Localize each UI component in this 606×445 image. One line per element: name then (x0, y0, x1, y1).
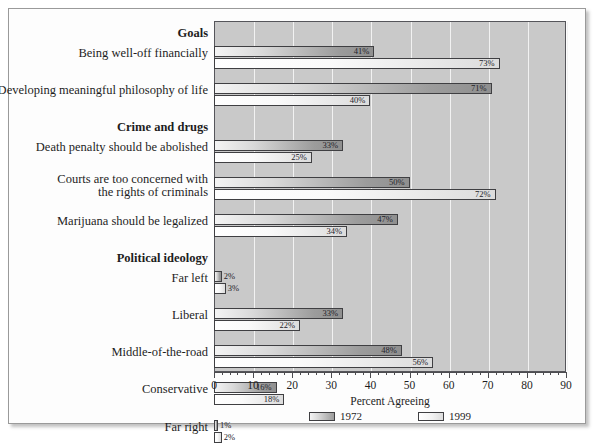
tick-label-0: 0 (211, 379, 217, 391)
category-label: Being well-off financially (78, 47, 208, 61)
bar-1972-far-left: 2% (214, 271, 222, 282)
legend-swatch-icon (418, 412, 444, 421)
tick-46 (394, 372, 395, 375)
tick-42 (378, 372, 379, 375)
legend-swatch-icon (309, 412, 335, 421)
tick-84 (543, 372, 544, 375)
bar-1972-marijuana-should-be-legalized: 47% (214, 214, 398, 225)
tick-74 (503, 372, 504, 375)
tick-52 (417, 372, 418, 375)
bar-value-label: 40% (350, 95, 366, 106)
bar-value-label: 73% (479, 58, 495, 69)
legend-label: 1999 (449, 410, 471, 422)
tick-22 (300, 372, 301, 375)
tick-76 (511, 372, 512, 375)
tick-label-30: 30 (326, 379, 338, 391)
legend-label: 1972 (340, 410, 362, 422)
bar-value-label: 33% (322, 140, 338, 151)
tick-36 (355, 372, 356, 375)
category-label: Courts are too concerned withthe rights … (0, 173, 208, 200)
tick-78 (519, 372, 520, 375)
tick-44 (386, 372, 387, 375)
tick-0 (214, 372, 215, 378)
tick-54 (425, 372, 426, 375)
bar-1972-middle-of-the-road: 48% (214, 345, 402, 356)
tick-86 (550, 372, 551, 375)
tick-40 (370, 372, 371, 378)
group-label: Crime and drugs (117, 121, 208, 135)
tick-14 (269, 372, 270, 375)
legend-item-1999[interactable]: 1999 (418, 410, 471, 422)
bar-value-label: 33% (322, 308, 338, 319)
tick-24 (308, 372, 309, 375)
tick-70 (488, 372, 489, 378)
tick-18 (284, 372, 285, 375)
tick-28 (324, 372, 325, 375)
chart-rows: GoalsBeing well-off financially41%73%Dev… (9, 21, 566, 372)
tick-10 (253, 372, 254, 378)
bar-1999-far-right: 2% (214, 432, 222, 443)
tick-2 (222, 372, 223, 375)
tick-32 (339, 372, 340, 375)
bar-1999-developing-meaningful-philosophy-of-life: 40% (214, 95, 370, 106)
tick-label-20: 20 (286, 379, 298, 391)
x-axis: 0102030405060708090 (214, 372, 566, 373)
bar-1972-liberal: 33% (214, 308, 343, 319)
tick-66 (472, 372, 473, 375)
tick-56 (433, 372, 434, 375)
tick-8 (245, 372, 246, 375)
tick-50 (410, 372, 411, 378)
tick-34 (347, 372, 348, 375)
chart-frame: GoalsBeing well-off financially41%73%Dev… (8, 8, 586, 424)
tick-12 (261, 372, 262, 375)
bar-1999-death-penalty-should-be-abolished: 25% (214, 152, 312, 163)
bar-value-label: 47% (377, 214, 393, 225)
bar-value-label: 2% (224, 271, 235, 282)
tick-68 (480, 372, 481, 375)
bar-1972-death-penalty-should-be-abolished: 33% (214, 140, 343, 151)
tick-64 (464, 372, 465, 375)
tick-label-70: 70 (482, 379, 494, 391)
category-label: Conservative (142, 383, 208, 397)
legend-item-1972[interactable]: 1972 (309, 410, 362, 422)
group-label: Goals (177, 27, 208, 41)
tick-6 (237, 372, 238, 375)
category-label: Developing meaningful philosophy of life (0, 84, 208, 98)
tick-label-50: 50 (404, 379, 416, 391)
category-label: Death penalty should be abolished (36, 141, 208, 155)
bar-1972-courts-are-too-concerned-with-the-rights-of-criminals: 50% (214, 177, 410, 188)
bar-value-label: 2% (224, 432, 235, 443)
x-axis-title: Percent Agreeing (214, 395, 566, 407)
tick-26 (316, 372, 317, 375)
bar-value-label: 25% (291, 152, 307, 163)
group-label: Political ideology (117, 252, 208, 266)
bar-1972-being-well-off-financially: 41% (214, 46, 374, 57)
category-label: Far right (165, 421, 208, 435)
tick-label-80: 80 (521, 379, 533, 391)
tick-88 (558, 372, 559, 375)
bar-value-label: 22% (279, 320, 295, 331)
bar-value-label: 71% (471, 83, 487, 94)
bar-value-label: 72% (475, 189, 491, 200)
category-label: Marijuana should be legalized (57, 215, 208, 229)
tick-30 (331, 372, 332, 378)
bar-1999-middle-of-the-road: 56% (214, 357, 433, 368)
gridline-90 (567, 22, 568, 371)
tick-62 (456, 372, 457, 375)
tick-72 (496, 372, 497, 375)
category-label: Middle-of-the-road (112, 346, 209, 360)
tick-label-10: 10 (247, 379, 259, 391)
bar-1999-courts-are-too-concerned-with-the-rights-of-criminals: 72% (214, 189, 496, 200)
bar-1999-being-well-off-financially: 73% (214, 58, 500, 69)
bar-value-label: 34% (326, 226, 342, 237)
tick-80 (527, 372, 528, 378)
tick-4 (230, 372, 231, 375)
tick-label-40: 40 (365, 379, 377, 391)
bar-1999-marijuana-should-be-legalized: 34% (214, 226, 347, 237)
bar-value-label: 41% (354, 46, 370, 57)
tick-label-60: 60 (443, 379, 455, 391)
category-label: Far left (172, 272, 208, 286)
bar-value-label: 50% (389, 177, 405, 188)
bar-value-label: 3% (228, 283, 239, 294)
tick-38 (363, 372, 364, 375)
